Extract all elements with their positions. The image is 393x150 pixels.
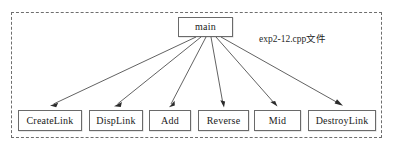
node-displink-label: DispLink xyxy=(96,116,135,126)
call-graph-diagram: main exp2-12.cpp文件 CreateLink DispLink A… xyxy=(0,0,393,150)
node-destroylink-label: DestroyLink xyxy=(316,116,369,126)
node-main-label: main xyxy=(195,22,216,32)
file-scope-caption: exp2-12.cpp文件 xyxy=(259,31,326,45)
node-displink[interactable]: DispLink xyxy=(89,110,143,131)
node-main[interactable]: main xyxy=(178,17,233,37)
node-add[interactable]: Add xyxy=(149,110,191,131)
node-mid-label: Mid xyxy=(269,116,286,126)
node-add-label: Add xyxy=(161,116,179,126)
node-reverse[interactable]: Reverse xyxy=(198,110,249,131)
node-createlink-label: CreateLink xyxy=(27,116,74,126)
node-reverse-label: Reverse xyxy=(207,116,241,126)
node-destroylink[interactable]: DestroyLink xyxy=(308,110,376,131)
clipped-bottom-caption xyxy=(0,143,393,150)
node-mid[interactable]: Mid xyxy=(254,110,301,131)
node-createlink[interactable]: CreateLink xyxy=(18,110,82,131)
